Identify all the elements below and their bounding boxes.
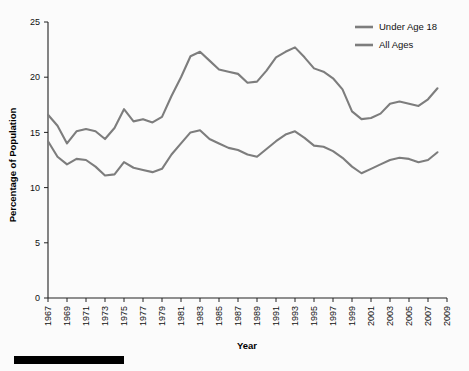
x-tick-label: 1975 <box>119 306 129 326</box>
x-tick-label: 2007 <box>423 306 433 326</box>
x-tick-label: 1987 <box>233 306 243 326</box>
x-tick-label: 1995 <box>309 306 319 326</box>
x-tick-label: 1999 <box>347 306 357 326</box>
legend-label: Under Age 18 <box>379 21 437 32</box>
figure-container: 0510152025 19671969197119731975197719791… <box>0 0 469 371</box>
series-group <box>48 47 438 175</box>
x-tick-label: 2005 <box>404 306 414 326</box>
x-tick-label: 1993 <box>290 306 300 326</box>
x-axis-ticks: 1967196919711973197519771979198119831985… <box>43 298 452 326</box>
x-tick-label: 2003 <box>385 306 395 326</box>
poverty-rate-line-chart: 0510152025 19671969197119731975197719791… <box>0 0 469 371</box>
x-tick-label: 1983 <box>195 306 205 326</box>
y-tick-label: 15 <box>30 128 40 138</box>
series-line-under-age-18 <box>48 47 438 143</box>
x-tick-label: 1991 <box>271 306 281 326</box>
black-scale-bar <box>14 356 124 364</box>
x-tick-label: 1973 <box>100 306 110 326</box>
legend-label: All Ages <box>379 39 414 50</box>
x-tick-label: 1979 <box>157 306 167 326</box>
x-tick-label: 1981 <box>176 306 186 326</box>
y-tick-label: 25 <box>30 17 40 27</box>
x-tick-label: 1969 <box>62 306 72 326</box>
x-tick-label: 1977 <box>138 306 148 326</box>
y-tick-label: 20 <box>30 72 40 82</box>
x-tick-label: 1967 <box>43 306 53 326</box>
y-tick-label: 5 <box>35 238 40 248</box>
x-tick-label: 2009 <box>442 306 452 326</box>
y-tick-label: 0 <box>35 293 40 303</box>
chart-legend: Under Age 18All Ages <box>355 21 437 50</box>
x-tick-label: 1997 <box>328 306 338 326</box>
y-axis-title: Percentage of Population <box>7 108 18 223</box>
x-tick-label: 1985 <box>214 306 224 326</box>
x-tick-label: 1971 <box>81 306 91 326</box>
x-tick-label: 1989 <box>252 306 262 326</box>
y-axis-ticks: 0510152025 <box>30 17 48 303</box>
x-tick-label: 2001 <box>366 306 376 326</box>
x-axis-title: Year <box>237 340 257 351</box>
y-tick-label: 10 <box>30 183 40 193</box>
